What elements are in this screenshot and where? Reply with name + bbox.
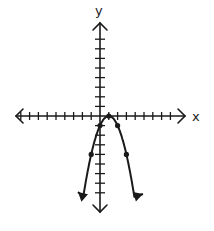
data-point [89, 152, 94, 157]
data-point [97, 123, 102, 128]
data-point [124, 152, 129, 157]
data-point [106, 113, 111, 118]
x-axis-label: x [192, 109, 200, 124]
curve-arrow-icon [78, 192, 88, 202]
data-point [115, 123, 120, 128]
coordinate-plane: x y [0, 0, 214, 231]
parabola-curve [78, 113, 143, 201]
y-axis-label: y [95, 3, 103, 18]
curve-arrow-icon [133, 192, 143, 202]
